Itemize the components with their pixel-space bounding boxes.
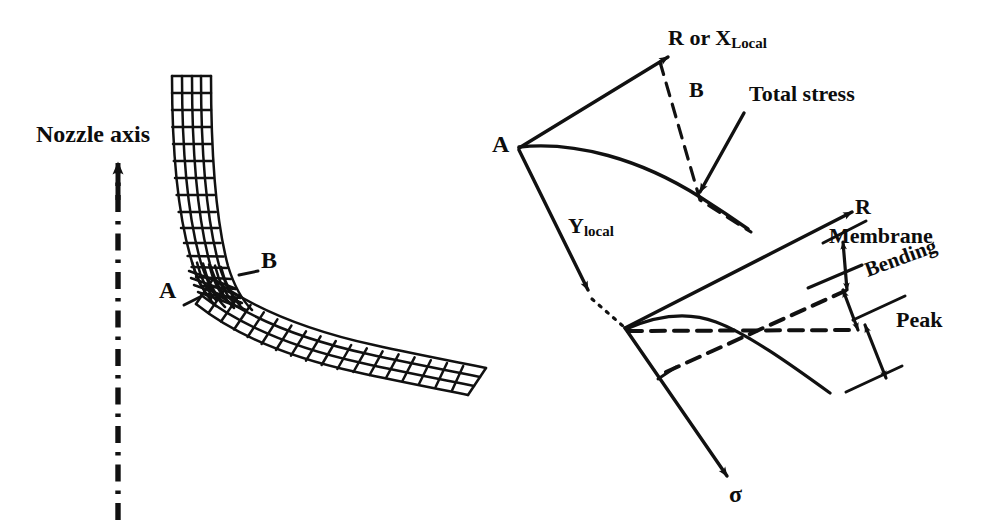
axis-ylocal-text: Y	[568, 213, 584, 238]
axis-r-arrow	[625, 212, 852, 328]
nozzle-axis-label: Nozzle axis	[36, 122, 150, 146]
peak-label: Peak	[896, 309, 942, 331]
upper-point-label-b: B	[689, 79, 704, 101]
ylocal-continuation	[592, 299, 624, 327]
upper-origin-label-a: A	[492, 132, 509, 156]
bending-tick	[808, 265, 862, 288]
lower-stress-decomposition	[625, 212, 905, 476]
axis-sigma-label: σ	[729, 482, 742, 506]
upper-stress-schematic	[519, 57, 751, 327]
axis-r-xlocal-subscript: Local	[731, 35, 767, 51]
linearized-dashed-line	[660, 62, 751, 232]
mesh-point-label-b: B	[261, 248, 277, 272]
leader-B	[239, 271, 258, 275]
axis-r-label: R	[855, 196, 871, 218]
axis-r-xlocal-text: R or X	[668, 25, 731, 50]
mesh-point-label-a: A	[159, 278, 176, 302]
figure-canvas: Nozzle axis A B R or XLocal B Total stre…	[0, 0, 995, 532]
membrane-dashed-line	[628, 330, 855, 331]
peak-tick-lower	[846, 366, 902, 392]
bending-double-arrow	[843, 290, 858, 330]
total-stress-callout-arrow	[700, 113, 744, 192]
axis-ylocal-label: Ylocal	[568, 215, 614, 239]
membrane-double-arrow	[843, 242, 847, 290]
nozzle-junction-mesh	[172, 76, 486, 395]
total-stress-label: Total stress	[749, 83, 855, 105]
diagram-svg	[0, 0, 995, 532]
axis-r-xlocal-arrow	[519, 57, 668, 148]
axis-r-xlocal-label: R or XLocal	[668, 27, 767, 51]
axis-ylocal-subscript: local	[584, 223, 614, 239]
peak-double-arrow	[865, 325, 886, 378]
bending-start-tick	[658, 367, 676, 379]
stress-distribution-curve	[626, 316, 830, 393]
